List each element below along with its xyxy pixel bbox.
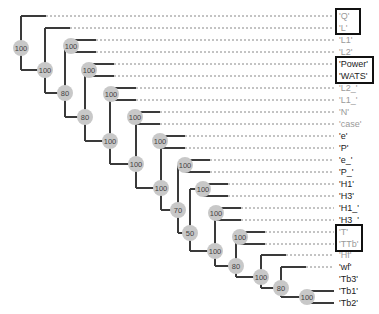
support-node: 100 bbox=[13, 40, 29, 56]
support-value: 100 bbox=[105, 90, 118, 99]
leaf-label-l2-under: 'L2_' bbox=[339, 83, 357, 93]
support-value: 100 bbox=[234, 233, 247, 242]
support-node: 80 bbox=[77, 109, 93, 125]
support-value: 100 bbox=[255, 273, 268, 282]
support-node: 100 bbox=[195, 181, 211, 197]
leaf-label-h1-under: 'H1_' bbox=[339, 203, 359, 213]
support-value: 100 bbox=[155, 184, 168, 193]
leaf-label-tb2: 'Tb2' bbox=[339, 298, 358, 308]
leaf-label-e: 'e' bbox=[339, 131, 347, 141]
support-node: 100 bbox=[153, 180, 169, 196]
phylogenetic-tree: 1001001008010080100100100100100100100100… bbox=[0, 0, 379, 314]
box-q-l bbox=[335, 8, 361, 35]
support-value: 100 bbox=[83, 66, 96, 75]
support-node: 100 bbox=[63, 38, 79, 54]
leaf-label-e-under: 'e_' bbox=[339, 155, 352, 165]
box-power-wats bbox=[335, 56, 374, 84]
support-node: 50 bbox=[182, 225, 198, 241]
leaf-label-l1: 'L1' bbox=[339, 35, 352, 45]
leaf-label-h3: 'H3' bbox=[339, 191, 354, 201]
leaf-label-tb3: 'Tb3' bbox=[339, 274, 358, 284]
leaf-label-case: 'case' bbox=[339, 119, 361, 129]
support-node: 100 bbox=[128, 156, 144, 172]
support-value: 80 bbox=[81, 113, 89, 122]
support-node: 100 bbox=[152, 133, 168, 149]
support-node: 70 bbox=[170, 202, 186, 218]
support-value: 50 bbox=[186, 229, 194, 238]
leaf-label-h1: 'H1' bbox=[339, 179, 354, 189]
support-value: 100 bbox=[154, 137, 167, 146]
leaf-label-l1-under: 'L1_' bbox=[339, 95, 357, 105]
leaf-label-n: 'N' bbox=[339, 107, 349, 117]
support-value: 80 bbox=[232, 262, 240, 271]
support-node: 100 bbox=[253, 269, 269, 285]
support-nodes: 1001001008010080100100100100100100100100… bbox=[13, 38, 315, 305]
support-value: 100 bbox=[210, 209, 223, 218]
support-value: 100 bbox=[39, 66, 52, 75]
support-value: 100 bbox=[130, 160, 143, 169]
support-node: 100 bbox=[207, 243, 223, 259]
support-node: 100 bbox=[232, 229, 248, 245]
support-node: 80 bbox=[228, 258, 244, 274]
support-node: 80 bbox=[57, 85, 73, 101]
support-node: 100 bbox=[102, 133, 118, 149]
support-node: 100 bbox=[208, 205, 224, 221]
support-value: 100 bbox=[301, 293, 314, 302]
support-node: 100 bbox=[103, 86, 119, 102]
support-value: 80 bbox=[61, 89, 69, 98]
leaf-label-tb1: 'Tb1' bbox=[339, 286, 358, 296]
support-value: 70 bbox=[174, 206, 182, 215]
support-node: 100 bbox=[81, 62, 97, 78]
support-value: 100 bbox=[15, 44, 28, 53]
leaf-label-wf: 'wf' bbox=[339, 262, 351, 272]
support-node: 100 bbox=[299, 289, 315, 305]
leaf-label-p-under: 'P_' bbox=[339, 167, 353, 177]
support-value: 100 bbox=[129, 113, 142, 122]
support-value: 100 bbox=[209, 247, 222, 256]
support-value: 100 bbox=[197, 185, 210, 194]
support-node: 100 bbox=[37, 62, 53, 78]
support-node: 80 bbox=[273, 280, 289, 296]
support-node: 100 bbox=[177, 157, 193, 173]
leaf-label-p: 'P' bbox=[339, 143, 348, 153]
support-value: 100 bbox=[104, 137, 117, 146]
support-value: 100 bbox=[179, 161, 192, 170]
support-value: 100 bbox=[65, 42, 78, 51]
support-value: 80 bbox=[277, 284, 285, 293]
support-node: 100 bbox=[127, 109, 143, 125]
box-t-ttb bbox=[335, 224, 363, 252]
